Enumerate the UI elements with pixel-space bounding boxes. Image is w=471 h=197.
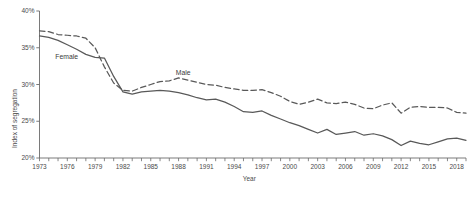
data-series-group	[40, 31, 467, 146]
y-tick-label: 20%	[21, 154, 34, 161]
series-label-male: Male	[176, 69, 191, 76]
x-tick-label: 1979	[81, 163, 109, 170]
x-tick-label: 1997	[248, 163, 276, 170]
y-tick-label: 30%	[21, 81, 34, 88]
axis-lines	[40, 11, 467, 158]
x-tick-label: 2000	[276, 163, 304, 170]
x-tick-label: 2009	[359, 163, 387, 170]
series-line-male	[40, 31, 467, 113]
x-tick-label: 1973	[26, 163, 54, 170]
x-tick-label: 2018	[443, 163, 471, 170]
x-tick-label: 1991	[192, 163, 220, 170]
x-tick-label: 2012	[387, 163, 415, 170]
x-tick-label: 1988	[165, 163, 193, 170]
x-tick-label: 2006	[331, 163, 359, 170]
x-tick-label: 2003	[304, 163, 332, 170]
series-label-female: Female	[55, 53, 78, 60]
x-tick-label: 2015	[415, 163, 443, 170]
y-tick-label: 25%	[21, 117, 34, 124]
y-axis-ticks	[36, 11, 39, 158]
x-tick-label: 1982	[109, 163, 137, 170]
x-tick-label: 1994	[220, 163, 248, 170]
segregation-index-line-chart: Index of segregation 20%25%30%35%40% 197…	[0, 0, 471, 197]
y-tick-label: 40%	[21, 7, 34, 14]
x-axis-title: Year	[243, 175, 256, 182]
x-tick-label: 1985	[137, 163, 165, 170]
y-tick-label: 35%	[21, 44, 34, 51]
x-axis-ticks	[40, 158, 467, 161]
x-tick-label: 1976	[53, 163, 81, 170]
